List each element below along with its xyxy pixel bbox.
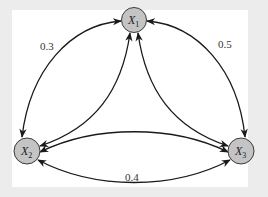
edge-label-x2-x3: 0.4	[125, 171, 139, 183]
markov-chain-diagram: 0.3 0.5 0.4 X1 X2 X3	[0, 0, 268, 197]
edge-x1-x2-outer	[22, 21, 121, 137]
edge-x1-x3-inner	[138, 33, 228, 146]
diagram-frame: 0.3 0.5 0.4 X1 X2 X3	[0, 0, 268, 197]
edge-x2-x3-inner	[40, 132, 228, 152]
edge-label-x1-x2: 0.3	[40, 40, 54, 52]
node-x1: X1	[122, 8, 147, 33]
node-x3: X3	[228, 138, 254, 164]
node-x2: X2	[14, 138, 40, 164]
edge-label-x1-x3: 0.5	[218, 38, 232, 50]
